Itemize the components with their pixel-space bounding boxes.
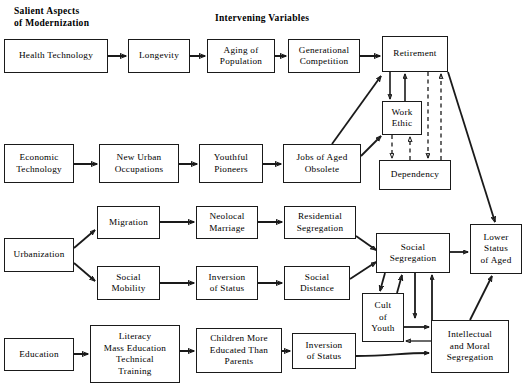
edge-cultofyouth-socialseg — [397, 275, 402, 293]
node-neolocal-marriage[interactable]: Neolocal Marriage — [196, 206, 258, 239]
node-dependency[interactable]: Dependency — [379, 160, 451, 190]
edge-residential-socialseg — [356, 236, 376, 250]
edge-intellectual-lowerstatus — [470, 276, 492, 320]
node-inversion-of-status-mid[interactable]: Inversion of Status — [196, 266, 258, 300]
edge-retirement-lowerstatus — [448, 72, 495, 222]
node-children-more-educated[interactable]: Children More Educated Than Parents — [196, 328, 282, 373]
node-aging-of-population[interactable]: Aging of Population — [207, 39, 275, 73]
node-urbanization[interactable]: Urbanization — [4, 238, 74, 272]
node-work-ethic[interactable]: Work Ethic — [382, 101, 422, 135]
node-jobs-of-aged-obsolete[interactable]: Jobs of Aged Obsolete — [283, 144, 361, 183]
node-health-technology[interactable]: Health Technology — [4, 39, 108, 73]
salient-aspects-header: Salient Aspects of Modernization — [14, 5, 89, 29]
edge-socialdistance-socialseg — [350, 262, 376, 279]
node-education[interactable]: Education — [4, 338, 74, 371]
edge-socialseg-cultofyouth — [380, 273, 385, 291]
node-residential-segregation[interactable]: Residential Segregation — [284, 206, 356, 239]
node-longevity[interactable]: Longevity — [128, 39, 190, 73]
node-cult-of-youth[interactable]: Cult of Youth — [362, 293, 404, 342]
edge-jobs-retirement — [332, 76, 381, 144]
node-intellectual-moral-segregation[interactable]: Intellectual and Moral Segregation — [431, 320, 509, 373]
node-youthful-pioneers[interactable]: Youthful Pioneers — [199, 144, 263, 183]
node-economic-technology[interactable]: Economic Technology — [4, 144, 74, 183]
edge-urbanization-socialmobility — [74, 263, 95, 281]
node-social-distance[interactable]: Social Distance — [284, 266, 350, 300]
node-social-mobility[interactable]: Social Mobility — [97, 266, 160, 300]
node-literacy-mass-education[interactable]: Literacy Mass Education Technical Traini… — [90, 325, 180, 383]
node-social-segregation[interactable]: Social Segregation — [376, 233, 450, 273]
diagram-canvas: Salient Aspects of Modernization Interve… — [0, 0, 528, 388]
edge-jobs-workethic — [361, 136, 381, 156]
node-inversion-of-status-bottom[interactable]: Inversion of Status — [292, 333, 356, 369]
node-migration[interactable]: Migration — [97, 206, 160, 239]
node-new-urban-occupations[interactable]: New Urban Occupations — [99, 144, 179, 183]
intervening-variables-header: Intervening Variables — [215, 12, 309, 24]
node-lower-status-of-aged[interactable]: Lower Status of Aged — [470, 224, 522, 274]
edge-urbanization-migration — [74, 230, 95, 248]
node-retirement[interactable]: Retirement — [382, 36, 448, 72]
node-generational-competition[interactable]: Generational Competition — [288, 39, 360, 73]
edge-inversionbot-intellectual — [356, 353, 429, 356]
